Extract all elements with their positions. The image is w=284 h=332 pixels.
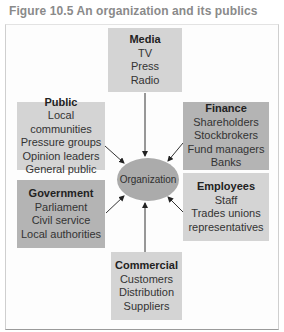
finance-item: Banks [211,156,242,170]
finance-item: Stockbrokers [194,129,258,143]
organization-label: Organization [120,174,177,185]
finance-heading: Finance [205,102,247,116]
government-heading: Government [29,187,94,201]
media-box: Media TV Press Radio [108,28,182,92]
commercial-box: Commercial Customers Distribution Suppli… [111,252,182,320]
employees-item: representatives [188,221,263,235]
media-item: TV [138,47,152,61]
government-item: Civil service [32,214,91,228]
arrow-public [105,146,124,163]
commercial-heading: Commercial [115,259,178,273]
arrow-employees [168,197,183,212]
government-box: Government Parliament Civil service Loca… [17,180,105,248]
public-item: Opinion leaders [22,150,99,164]
employees-item: Trades unions [191,207,260,221]
organization-node: Organization [117,158,179,201]
media-item: Press [131,60,159,74]
finance-item: Shareholders [193,116,258,130]
arrow-finance [168,143,183,161]
government-item: Parliament [35,201,88,215]
finance-item: Fund managers [187,143,264,157]
commercial-item: Distribution [119,286,174,300]
employees-heading: Employees [197,180,255,194]
public-heading: Public [44,96,77,110]
public-item: Local communities [17,109,105,136]
commercial-item: Customers [120,273,173,287]
finance-box: Finance Shareholders Stockbrokers Fund m… [183,102,269,170]
government-item: Local authorities [21,228,101,242]
media-heading: Media [129,33,160,47]
public-item: General public [26,163,97,177]
employees-item: Staff [215,194,237,208]
employees-box: Employees Staff Trades unions representa… [183,173,269,241]
arrow-government [106,196,124,213]
public-box: Public Local communities Pressure groups… [17,102,105,170]
commercial-item: Suppliers [124,300,170,314]
public-item: Pressure groups [21,136,102,150]
media-item: Radio [131,74,160,88]
